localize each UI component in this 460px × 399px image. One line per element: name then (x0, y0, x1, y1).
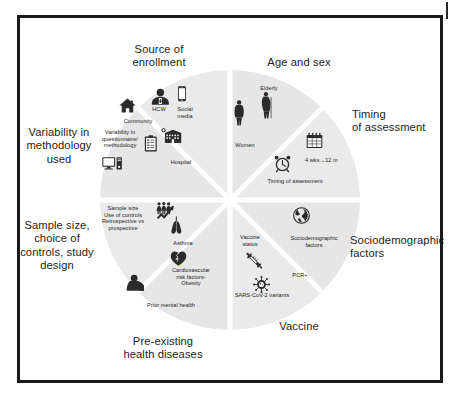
inner-label-hcw: HCW (146, 106, 172, 113)
inner-label-women: Women (231, 142, 259, 149)
inner-label-social-media: Social media (172, 106, 198, 119)
inner-label-sample-size: Sample size Use of controls Retrospectiv… (92, 205, 154, 231)
inner-label-community: Community (118, 118, 158, 125)
figure-stage: Source of enrollment Age and sex Timing … (0, 0, 460, 399)
label-vaccine: Vaccine (244, 320, 354, 333)
label-timing-of-assessment: Timing of assessment (352, 108, 452, 135)
virus-icon (253, 276, 270, 293)
inner-label-questionnaire: Variability in questionnaire/ methodolog… (96, 129, 144, 149)
label-pre-existing-health-diseases: Pre-existing health diseases (96, 335, 230, 362)
clipboard-icon (145, 135, 157, 151)
label-source-of-enrollment: Source of enrollment (100, 43, 218, 70)
calendar-icon (307, 133, 323, 148)
inner-label-cardiovascular: Cardiovascular risk factors- Obesity (168, 267, 214, 287)
inner-label-hospital: Hospital (164, 159, 198, 166)
inner-label-elderly: Elderly (254, 85, 284, 92)
inner-label-four-weeks-to-twelve-months: 4 wks→12 m (305, 157, 345, 164)
label-age-and-sex: Age and sex (240, 56, 358, 69)
label-sociodemographic-factors: Sociodemographic factors (350, 234, 454, 261)
inner-label-asthma: Asthma (170, 240, 196, 247)
inner-label-vaccine-status: Vaccine status (233, 234, 267, 247)
house-icon (119, 99, 135, 113)
figure-root: Source of enrollment Age and sex Timing … (0, 0, 460, 399)
label-variability-in-methodology: Variability in methodology used (10, 126, 108, 166)
inner-label-prior-mental-health: Prior mental health (140, 302, 202, 309)
smartphone-icon (178, 86, 186, 101)
inner-label-timing-of-assessment: Timing of assessment (262, 178, 328, 185)
inner-label-pcr-positive: PCR+ (288, 272, 312, 279)
inner-label-sociodemographic: Sociodemographic factors (285, 235, 343, 248)
inner-label-sars-cov-2-variants: SARS-CoV-2 variants (228, 292, 296, 299)
pie-wheel (0, 0, 460, 399)
